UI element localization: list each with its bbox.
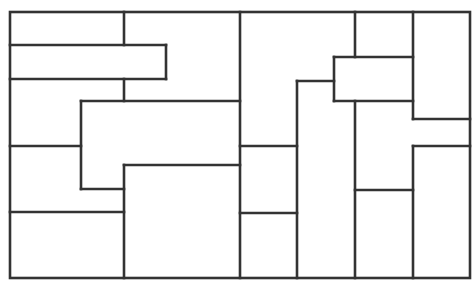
partition-diagram (0, 0, 472, 282)
